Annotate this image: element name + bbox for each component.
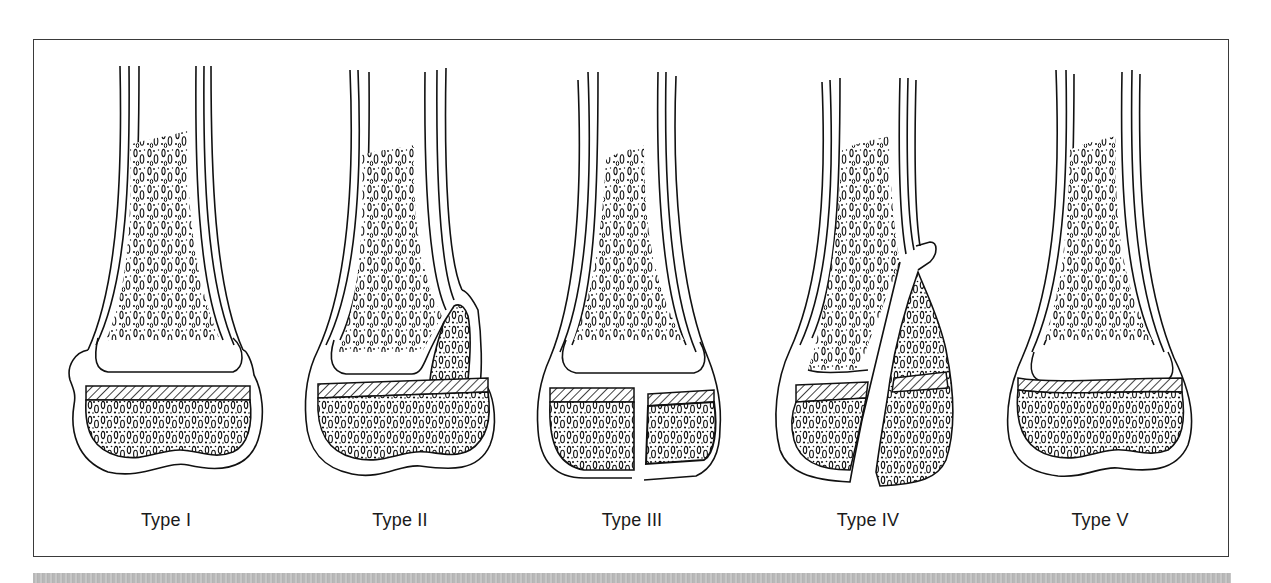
panel-type-5: Type V: [982, 40, 1218, 558]
bone-illustration-type-1: [48, 40, 284, 510]
bone-illustration-type-5: [982, 40, 1218, 510]
panel-type-2: Type II: [282, 40, 518, 558]
panel-label: Type II: [282, 510, 518, 531]
panel-label: Type III: [514, 510, 750, 531]
bottom-gray-band: [33, 573, 1231, 583]
panel-type-3: Type III: [514, 40, 750, 558]
bone-illustration-type-4: [750, 40, 986, 510]
panel-label: Type V: [982, 510, 1218, 531]
bone-illustration-type-3: [514, 40, 750, 510]
panel-type-4: Type IV: [750, 40, 986, 558]
panel-label: Type I: [48, 510, 284, 531]
panel-type-1: Type I: [48, 40, 284, 558]
panel-label: Type IV: [750, 510, 986, 531]
figure-frame: Type I Type II: [33, 39, 1229, 557]
bone-illustration-type-2: [282, 40, 518, 510]
